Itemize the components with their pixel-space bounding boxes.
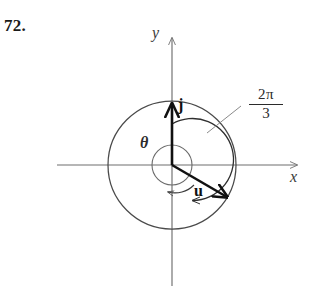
angle-leader-line bbox=[207, 106, 241, 133]
vector-j-label: j bbox=[178, 96, 183, 114]
x-axis-label: x bbox=[290, 168, 297, 186]
rotation-angle-label: 2π 3 bbox=[243, 87, 289, 122]
angle-denominator: 3 bbox=[243, 106, 289, 122]
theta-label: θ bbox=[140, 134, 148, 152]
y-axis-label: y bbox=[152, 24, 159, 42]
figure-page: 72. bbox=[0, 0, 315, 298]
vector-u-label: u bbox=[194, 182, 203, 200]
angle-numerator: 2π bbox=[243, 87, 289, 103]
vector-diagram bbox=[0, 0, 315, 298]
